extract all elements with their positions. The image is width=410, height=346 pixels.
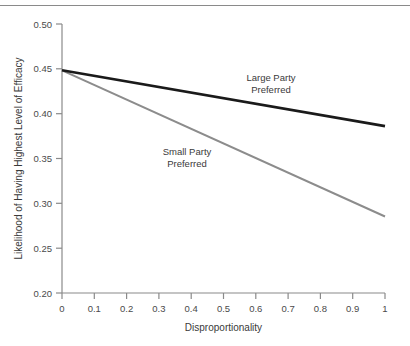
series-line-small-party — [62, 70, 385, 216]
chart-canvas: 0.50 0.45 0.40 0.35 0.30 0.25 0.20 0 0.1… — [0, 0, 410, 346]
y-tick-label: 0.45 — [34, 63, 53, 74]
small-party-annotation-line2: Preferred — [167, 158, 207, 169]
small-party-annotation-line1: Small Party — [163, 146, 212, 157]
x-tick-label: 0.5 — [217, 303, 230, 314]
x-tick-label: 0.1 — [88, 303, 101, 314]
figure-container: 0.50 0.45 0.40 0.35 0.30 0.25 0.20 0 0.1… — [0, 0, 410, 346]
series-line-large-party — [62, 70, 385, 126]
x-axis-title: Disproportionality — [185, 322, 262, 333]
x-tick-label: 0.8 — [314, 303, 327, 314]
y-tick-label: 0.35 — [34, 153, 53, 164]
large-party-annotation-line2: Preferred — [251, 84, 291, 95]
x-tick-label: 0.3 — [152, 303, 165, 314]
x-tick-label: 0 — [59, 303, 64, 314]
large-party-annotation: Large Party Preferred — [246, 72, 295, 95]
large-party-annotation-line1: Large Party — [246, 72, 295, 83]
y-tick-label: 0.50 — [34, 19, 53, 30]
x-tick-label: 1 — [382, 303, 387, 314]
x-tick-label: 0.7 — [281, 303, 294, 314]
y-tick-label: 0.30 — [34, 198, 53, 209]
y-tick-label: 0.40 — [34, 108, 53, 119]
x-tick-label: 0.2 — [120, 303, 133, 314]
x-tick-label: 0.9 — [346, 303, 359, 314]
y-tick-label: 0.25 — [34, 243, 53, 254]
y-axis-ticks — [56, 24, 62, 293]
small-party-annotation: Small Party Preferred — [163, 146, 212, 169]
x-axis-ticks — [62, 293, 385, 299]
x-tick-label: 0.6 — [249, 303, 262, 314]
y-tick-label: 0.20 — [34, 288, 53, 299]
y-axis-title: Likelihood of Having Highest Level of Ef… — [13, 57, 24, 259]
x-tick-label: 0.4 — [185, 303, 198, 314]
